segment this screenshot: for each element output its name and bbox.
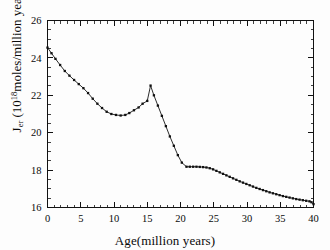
data-line	[48, 48, 314, 205]
data-point-marker	[115, 114, 117, 116]
data-point-marker	[189, 166, 191, 168]
data-point-marker	[141, 103, 143, 105]
y-tick-label: 18	[31, 165, 42, 176]
y-axis-subscript: er	[15, 121, 25, 128]
data-point-marker	[308, 200, 310, 202]
data-series-group	[46, 46, 314, 205]
figure-container: 0510152025303540 161820222426 Jer (1018m…	[0, 0, 330, 250]
data-point-marker	[298, 199, 300, 201]
y-axis-symbol: J	[9, 127, 24, 132]
data-point-marker	[149, 84, 151, 86]
x-axis-tick-labels: 0510152025303540	[45, 213, 319, 224]
data-point-marker	[288, 196, 290, 198]
y-axis-title: Jer (1018moles/million years)	[9, 0, 26, 153]
data-point-marker	[173, 145, 175, 147]
x-tick-label: 20	[175, 213, 186, 224]
line-chart: 0510152025303540 161820222426	[0, 0, 330, 250]
data-point-marker	[249, 184, 251, 186]
data-point-marker	[239, 180, 241, 182]
data-point-marker	[106, 111, 108, 113]
y-axis-exponent: 18	[9, 92, 19, 101]
data-point-marker	[262, 189, 264, 191]
data-point-marker	[212, 168, 214, 170]
data-point-marker	[133, 109, 135, 111]
data-point-marker	[232, 177, 234, 179]
data-point-marker	[101, 107, 103, 109]
y-tick-label: 22	[31, 90, 42, 101]
data-point-marker	[82, 87, 84, 89]
data-point-marker	[295, 198, 297, 200]
x-tick-label: 40	[308, 213, 319, 224]
data-point-marker	[50, 52, 52, 54]
data-point-marker	[219, 171, 221, 173]
y-axis-unit-rest: moles/million years)	[9, 0, 24, 92]
data-point-marker	[137, 106, 139, 108]
data-point-marker	[161, 115, 163, 117]
data-point-marker	[225, 174, 227, 176]
data-point-marker	[181, 161, 183, 163]
x-tick-label: 25	[209, 213, 220, 224]
data-point-marker	[205, 166, 207, 168]
data-point-marker	[229, 176, 231, 178]
data-point-marker	[78, 83, 80, 85]
data-point-marker	[285, 196, 287, 198]
data-point-marker	[272, 192, 274, 194]
data-point-marker	[199, 166, 201, 168]
data-point-marker	[292, 197, 294, 199]
data-point-marker	[146, 100, 148, 102]
x-tick-label: 10	[109, 213, 120, 224]
x-axis-title: Age(million years)	[0, 233, 330, 249]
data-point-marker	[215, 170, 217, 172]
data-point-marker	[222, 173, 224, 175]
data-point-marker	[64, 70, 66, 72]
data-point-marker	[73, 79, 75, 81]
y-axis-unit-open: (10	[9, 100, 24, 121]
data-point-marker	[312, 203, 314, 205]
data-point-marker	[305, 200, 307, 202]
data-point-marker	[120, 114, 122, 116]
data-point-marker	[153, 94, 155, 96]
data-point-marker	[157, 104, 159, 106]
axes-frame	[48, 21, 314, 208]
data-point-marker	[195, 166, 197, 168]
data-point-marker	[110, 113, 112, 115]
data-point-marker	[185, 166, 187, 168]
data-point-marker	[278, 194, 280, 196]
data-point-marker	[235, 179, 237, 181]
data-point-marker	[128, 112, 130, 114]
data-point-marker	[59, 64, 61, 66]
data-point-marker	[275, 193, 277, 195]
data-point-marker	[165, 125, 167, 127]
data-point-marker	[255, 187, 257, 189]
data-point-marker	[54, 58, 56, 60]
data-point-marker	[245, 183, 247, 185]
x-tick-label: 0	[45, 213, 50, 224]
data-point-marker	[96, 103, 98, 105]
y-tick-label: 16	[31, 202, 42, 213]
data-point-marker	[242, 181, 244, 183]
x-tick-label: 35	[275, 213, 286, 224]
x-tick-label: 15	[142, 213, 153, 224]
data-point-marker	[209, 167, 211, 169]
data-point-marker	[92, 98, 94, 100]
data-point-marker	[177, 154, 179, 156]
y-tick-label: 20	[31, 127, 42, 138]
y-tick-label: 24	[31, 53, 42, 64]
data-point-marker	[46, 46, 48, 48]
x-tick-label: 5	[78, 213, 83, 224]
x-tick-label: 30	[242, 213, 253, 224]
y-tick-label: 26	[31, 15, 42, 26]
data-point-marker	[202, 166, 204, 168]
data-point-marker	[302, 199, 304, 201]
data-point-marker	[282, 195, 284, 197]
data-point-marker	[268, 191, 270, 193]
data-point-marker	[192, 166, 194, 168]
data-point-marker	[169, 135, 171, 137]
data-point-marker	[310, 201, 312, 203]
data-point-marker	[124, 114, 126, 116]
axis-ticks	[48, 21, 314, 208]
data-point-marker	[258, 188, 260, 190]
data-point-marker	[265, 190, 267, 192]
data-point-marker	[252, 185, 254, 187]
data-point-marker	[87, 92, 89, 94]
